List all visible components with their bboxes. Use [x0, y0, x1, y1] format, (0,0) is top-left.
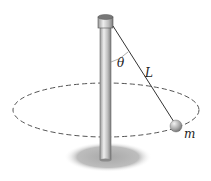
string: [113, 26, 174, 122]
pole-cap-top: [98, 15, 113, 20]
theta-label: θ: [117, 57, 124, 69]
mass-ball: [170, 120, 182, 132]
mass-label: m: [184, 128, 195, 140]
pole-bottom: [100, 159, 111, 162]
conical-pendulum-diagram: [0, 0, 211, 181]
length-label: L: [145, 67, 153, 79]
pole: [100, 26, 111, 160]
